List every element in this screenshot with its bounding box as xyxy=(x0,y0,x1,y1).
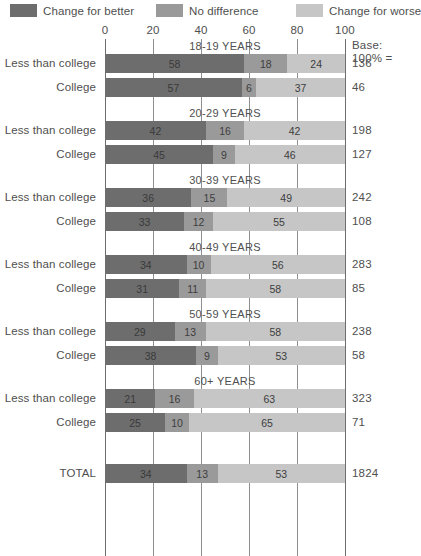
legend-label-no-difference: No difference xyxy=(189,5,259,17)
bar-segment-same: 12 xyxy=(184,212,213,231)
bar-segment-worse: 42 xyxy=(244,121,345,140)
age-band-title: 20-29 YEARS xyxy=(105,106,345,121)
bar-segment-worse: 46 xyxy=(235,145,345,164)
stacked-bar: 57637 xyxy=(105,78,345,97)
bar-segment-same: 10 xyxy=(187,255,211,274)
x-axis-tick-0: 0 xyxy=(102,24,109,36)
base-value: 58 xyxy=(352,346,365,365)
bar-segment-worse: 58 xyxy=(206,279,345,298)
bar-segment-worse: 63 xyxy=(194,389,345,408)
base-value: 198 xyxy=(352,121,372,140)
bar-segment-worse: 53 xyxy=(218,346,345,365)
row-label: College xyxy=(56,279,96,298)
base-value: 85 xyxy=(352,279,365,298)
bar-segment-same: 13 xyxy=(187,464,218,483)
legend-label-change-for-better: Change for better xyxy=(43,5,134,17)
bar-segment-better: 57 xyxy=(105,78,242,97)
stacked-bar: 421642 xyxy=(105,121,345,140)
chart-row: College331255108 xyxy=(0,212,406,231)
base-value: 127 xyxy=(352,145,372,164)
row-label: Less than college xyxy=(5,54,96,73)
x-axis-tick-20: 20 xyxy=(146,24,159,36)
chart-legend: Change for better No difference Change f… xyxy=(0,0,406,24)
x-axis-tick-40: 40 xyxy=(194,24,207,36)
base-value: 1824 xyxy=(352,464,378,483)
stacked-bar: 251065 xyxy=(105,413,345,432)
stacked-bar: 331255 xyxy=(105,212,345,231)
row-label: Less than college xyxy=(5,121,96,140)
bar-segment-same: 9 xyxy=(196,346,218,365)
chart-row: College3895358 xyxy=(0,346,406,365)
row-label: Less than college xyxy=(5,188,96,207)
bar-segment-worse: 53 xyxy=(218,464,345,483)
base-value: 108 xyxy=(352,212,372,231)
chart-rows: 18-19 YEARSLess than college581824136Col… xyxy=(0,39,406,556)
age-band-title: 60+ YEARS xyxy=(105,374,345,389)
bar-segment-same: 16 xyxy=(155,389,193,408)
bar-segment-worse: 49 xyxy=(227,188,345,207)
bar-segment-worse: 65 xyxy=(189,413,345,432)
chart-row: TOTAL3413531824 xyxy=(0,464,406,483)
stacked-bar: 45946 xyxy=(105,145,345,164)
row-label: College xyxy=(56,212,96,231)
legend-swatch-change-for-better xyxy=(10,4,37,17)
bar-segment-better: 31 xyxy=(105,279,179,298)
stacked-bar: 291358 xyxy=(105,322,345,341)
stacked-bar: 38953 xyxy=(105,346,345,365)
bar-segment-worse: 58 xyxy=(206,322,345,341)
chart-row: College31115885 xyxy=(0,279,406,298)
row-label: College xyxy=(56,346,96,365)
chart-row: Less than college211663323 xyxy=(0,389,406,408)
bar-segment-better: 33 xyxy=(105,212,184,231)
chart-row: Less than college341056283 xyxy=(0,255,406,274)
legend-item-no-difference: No difference xyxy=(156,4,259,17)
row-label: Less than college xyxy=(5,322,96,341)
x-axis-tick-80: 80 xyxy=(290,24,303,36)
bar-segment-same: 10 xyxy=(165,413,189,432)
age-band-title: 40-49 YEARS xyxy=(105,240,345,255)
stacked-bar: 361549 xyxy=(105,188,345,207)
bar-segment-worse: 37 xyxy=(256,78,345,97)
bar-segment-better: 29 xyxy=(105,322,175,341)
bar-segment-same: 9 xyxy=(213,145,235,164)
bar-segment-same: 11 xyxy=(179,279,205,298)
bar-segment-better: 36 xyxy=(105,188,191,207)
legend-item-change-for-better: Change for better xyxy=(10,4,134,17)
bar-segment-better: 42 xyxy=(105,121,206,140)
chart-row: Less than college361549242 xyxy=(0,188,406,207)
row-label: College xyxy=(56,413,96,432)
bar-segment-better: 34 xyxy=(105,255,187,274)
bar-segment-worse: 55 xyxy=(213,212,345,231)
chart-row: Less than college421642198 xyxy=(0,121,406,140)
bar-segment-same: 15 xyxy=(191,188,227,207)
bar-segment-worse: 56 xyxy=(211,255,345,274)
legend-swatch-change-for-worse xyxy=(296,4,323,17)
age-band-title: 18-19 YEARS xyxy=(105,39,345,54)
chart-plot-area: 020406080100 Base: 100% = 18-19 YEARSLes… xyxy=(0,24,406,556)
bar-segment-better: 25 xyxy=(105,413,165,432)
base-value: 46 xyxy=(352,78,365,97)
legend-swatch-no-difference xyxy=(156,4,183,17)
legend-item-change-for-worse: Change for worse xyxy=(296,4,421,17)
stacked-bar: 341056 xyxy=(105,255,345,274)
chart-row: College45946127 xyxy=(0,145,406,164)
stacked-bar: 311158 xyxy=(105,279,345,298)
base-value: 283 xyxy=(352,255,372,274)
x-axis-tick-100: 100 xyxy=(335,24,355,36)
chart-row: College5763746 xyxy=(0,78,406,97)
stacked-bar: 341353 xyxy=(105,464,345,483)
base-value: 136 xyxy=(352,54,372,73)
row-label: Less than college xyxy=(5,255,96,274)
row-label: College xyxy=(56,78,96,97)
chart-row: College25106571 xyxy=(0,413,406,432)
stacked-bar: 211663 xyxy=(105,389,345,408)
age-band-title: 30-39 YEARS xyxy=(105,173,345,188)
chart-row: Less than college291358238 xyxy=(0,322,406,341)
x-axis-tick-60: 60 xyxy=(242,24,255,36)
row-label: College xyxy=(56,145,96,164)
base-value: 323 xyxy=(352,389,372,408)
x-axis-tick-labels: 020406080100 xyxy=(0,24,406,39)
bar-segment-better: 21 xyxy=(105,389,155,408)
row-label: TOTAL xyxy=(60,464,97,483)
bar-segment-worse: 24 xyxy=(287,54,345,73)
